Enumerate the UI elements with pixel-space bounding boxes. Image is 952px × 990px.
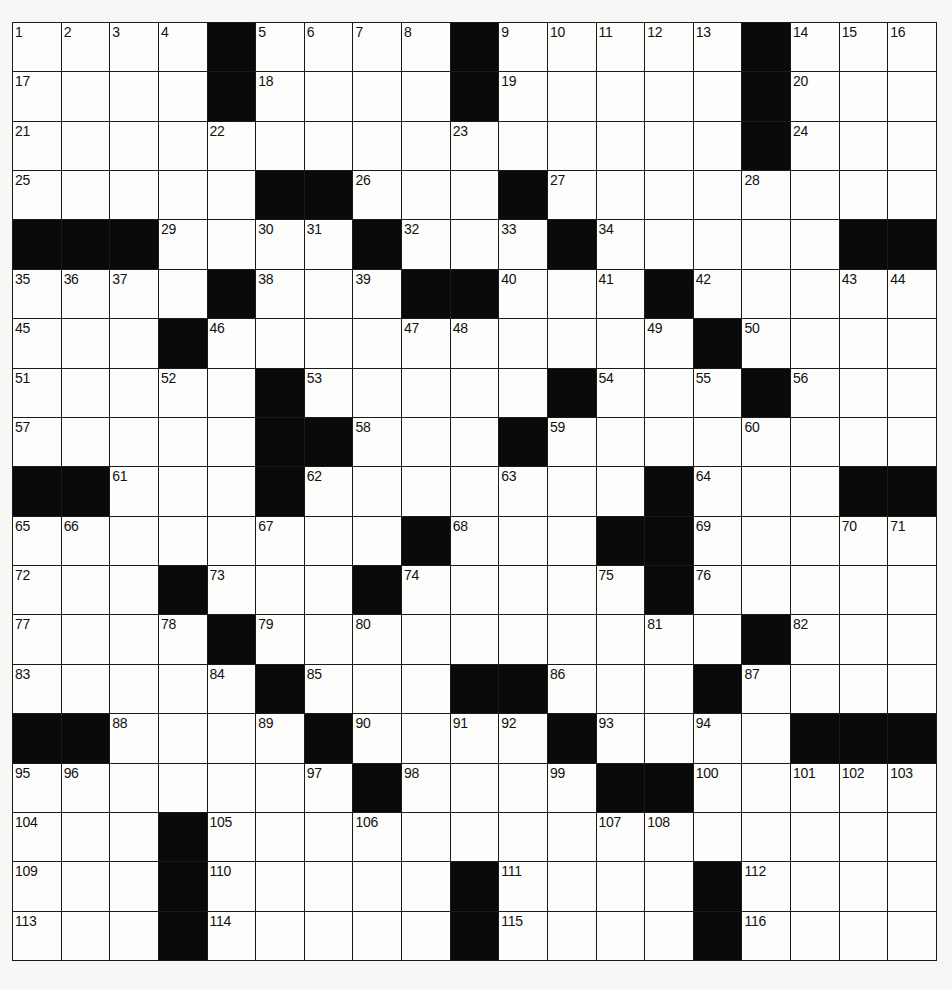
grid-cell[interactable] [597,171,645,219]
grid-cell[interactable] [499,566,547,614]
grid-cell[interactable] [791,566,839,614]
grid-cell[interactable]: 16 [888,23,936,71]
grid-cell[interactable] [62,813,110,861]
grid-cell[interactable] [353,912,401,960]
grid-cell[interactable]: 55 [694,369,742,417]
grid-cell[interactable]: 95 [13,764,61,812]
grid-cell[interactable] [499,369,547,417]
grid-cell[interactable]: 10 [548,23,596,71]
grid-cell[interactable]: 21 [13,122,61,170]
grid-cell[interactable]: 46 [208,319,256,367]
grid-cell[interactable] [597,319,645,367]
grid-cell[interactable]: 70 [840,517,888,565]
grid-cell[interactable] [353,369,401,417]
grid-cell[interactable] [451,764,499,812]
grid-cell[interactable] [159,467,207,515]
grid-cell[interactable] [256,319,304,367]
grid-cell[interactable] [742,517,790,565]
grid-cell[interactable]: 111 [499,862,547,910]
grid-cell[interactable] [597,467,645,515]
grid-cell[interactable] [62,912,110,960]
grid-cell[interactable] [305,270,353,318]
grid-cell[interactable] [888,813,936,861]
grid-cell[interactable] [62,615,110,663]
grid-cell[interactable]: 39 [353,270,401,318]
grid-cell[interactable] [742,714,790,762]
grid-cell[interactable] [888,418,936,466]
grid-cell[interactable] [159,122,207,170]
grid-cell[interactable] [791,467,839,515]
grid-cell[interactable]: 7 [353,23,401,71]
grid-cell[interactable] [548,813,596,861]
grid-cell[interactable] [645,912,693,960]
grid-cell[interactable]: 20 [791,72,839,120]
grid-cell[interactable] [888,171,936,219]
grid-cell[interactable] [548,270,596,318]
grid-cell[interactable] [62,72,110,120]
grid-cell[interactable] [597,72,645,120]
grid-cell[interactable] [451,369,499,417]
grid-cell[interactable] [110,764,158,812]
grid-cell[interactable]: 51 [13,369,61,417]
grid-cell[interactable]: 71 [888,517,936,565]
grid-cell[interactable]: 84 [208,665,256,713]
grid-cell[interactable] [597,122,645,170]
grid-cell[interactable] [499,517,547,565]
grid-cell[interactable] [451,418,499,466]
grid-cell[interactable] [548,615,596,663]
grid-cell[interactable]: 24 [791,122,839,170]
grid-cell[interactable] [159,517,207,565]
grid-cell[interactable] [402,467,450,515]
grid-cell[interactable]: 80 [353,615,401,663]
grid-cell[interactable] [548,517,596,565]
grid-cell[interactable]: 27 [548,171,596,219]
grid-cell[interactable] [208,171,256,219]
grid-cell[interactable] [694,813,742,861]
grid-cell[interactable] [840,418,888,466]
grid-cell[interactable] [451,813,499,861]
grid-cell[interactable] [159,418,207,466]
grid-cell[interactable] [645,665,693,713]
grid-cell[interactable]: 58 [353,418,401,466]
grid-cell[interactable]: 8 [402,23,450,71]
grid-cell[interactable]: 35 [13,270,61,318]
grid-cell[interactable] [62,171,110,219]
grid-cell[interactable]: 108 [645,813,693,861]
grid-cell[interactable] [353,665,401,713]
grid-cell[interactable] [208,764,256,812]
grid-cell[interactable]: 18 [256,72,304,120]
grid-cell[interactable]: 26 [353,171,401,219]
grid-cell[interactable] [694,615,742,663]
grid-cell[interactable] [888,912,936,960]
grid-cell[interactable] [645,122,693,170]
grid-cell[interactable] [791,220,839,268]
grid-cell[interactable]: 52 [159,369,207,417]
grid-cell[interactable]: 103 [888,764,936,812]
grid-cell[interactable]: 77 [13,615,61,663]
grid-cell[interactable] [305,517,353,565]
grid-cell[interactable]: 56 [791,369,839,417]
grid-cell[interactable] [840,615,888,663]
grid-cell[interactable] [305,122,353,170]
grid-cell[interactable] [888,566,936,614]
grid-cell[interactable] [548,862,596,910]
grid-cell[interactable]: 33 [499,220,547,268]
grid-cell[interactable] [353,319,401,367]
grid-cell[interactable]: 116 [742,912,790,960]
grid-cell[interactable] [305,862,353,910]
grid-cell[interactable]: 38 [256,270,304,318]
grid-cell[interactable]: 19 [499,72,547,120]
grid-cell[interactable] [694,418,742,466]
grid-cell[interactable] [256,764,304,812]
grid-cell[interactable]: 15 [840,23,888,71]
grid-cell[interactable] [402,813,450,861]
grid-cell[interactable]: 104 [13,813,61,861]
grid-cell[interactable]: 62 [305,467,353,515]
grid-cell[interactable]: 57 [13,418,61,466]
grid-cell[interactable]: 59 [548,418,596,466]
grid-cell[interactable] [548,912,596,960]
grid-cell[interactable] [402,615,450,663]
grid-cell[interactable] [159,171,207,219]
grid-cell[interactable]: 60 [742,418,790,466]
grid-cell[interactable] [888,615,936,663]
